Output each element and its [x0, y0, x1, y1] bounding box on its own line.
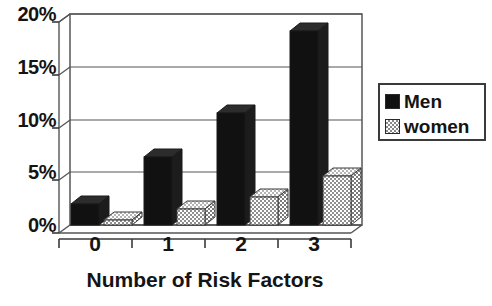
bar-chart: 20% 15% 10% 5% 0% — [0, 0, 492, 306]
bar-group-3 — [290, 23, 361, 225]
bar-women-2[interactable] — [250, 189, 288, 225]
legend-label-women: women — [404, 117, 469, 137]
legend-item-men[interactable]: Men — [385, 89, 480, 114]
x-tick-label-3: 3 — [294, 232, 334, 256]
legend-label-men: Men — [404, 92, 442, 112]
bar-men-2[interactable] — [217, 105, 255, 225]
bar-group-2 — [217, 105, 288, 225]
chart-legend: Men women — [378, 83, 486, 141]
bar-women-0[interactable] — [104, 212, 142, 225]
x-axis-title: Number of Risk Factors — [40, 268, 370, 292]
bar-men-1[interactable] — [144, 149, 182, 225]
bar-women-1[interactable] — [177, 201, 215, 225]
legend-swatch-women-icon — [385, 119, 400, 134]
bar-women-3[interactable] — [323, 168, 361, 225]
bar-men-0[interactable] — [71, 196, 109, 225]
x-tick-label-2: 2 — [221, 232, 261, 256]
bar-group-1 — [144, 149, 215, 225]
legend-swatch-men-icon — [385, 94, 400, 109]
legend-item-women[interactable]: women — [385, 114, 480, 139]
bar-men-3[interactable] — [290, 23, 328, 225]
x-tick-label-1: 1 — [148, 232, 188, 256]
x-tick-label-0: 0 — [75, 232, 115, 256]
bars-layer — [0, 0, 492, 306]
bar-group-0 — [71, 196, 142, 225]
